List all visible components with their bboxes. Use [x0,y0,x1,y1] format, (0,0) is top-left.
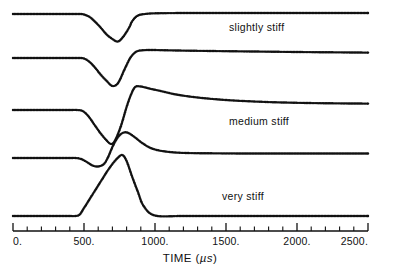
data-point-marker [367,215,369,217]
chart-svg: 0.500.1000.1500.2000.2500. TIME (µs) sli… [0,0,394,272]
x-axis-title-suffix: ) [213,252,217,264]
trace-2 [12,49,369,87]
x-axis-group: 0.500.1000.1500.2000.2500. [13,223,368,247]
annotation-slightly-stiff: slightly stiff [229,21,284,33]
x-tick-label: 1500. [212,235,239,247]
x-tick-label: 0. [13,235,22,247]
x-axis-title-unit: µs [200,252,213,264]
trace-series-group [12,12,369,218]
x-axis-title-prefix: TIME ( [163,252,200,264]
x-tick-label: 2000. [283,235,310,247]
trace-1 [12,12,369,43]
data-point-marker [367,102,369,104]
x-axis-tick-labels: 0.500.1000.1500.2000.2500. [13,235,368,247]
data-point-marker [367,12,369,14]
trace-4 [12,131,369,168]
x-tick-label: 500. [73,235,94,247]
x-tick-label: 2500. [341,235,368,247]
data-point-marker [367,152,369,154]
trace-5 [12,154,369,218]
x-tick-label: 1000. [141,235,168,247]
annotation-very-stiff: very stiff [222,190,264,202]
annotation-medium-stiff: medium stiff [229,115,289,127]
x-axis-title: TIME (µs) [163,252,217,264]
waveform-chart-figure: 0.500.1000.1500.2000.2500. TIME (µs) sli… [0,0,394,272]
trace-3 [12,85,369,145]
x-axis-ticks [13,223,368,231]
data-point-marker [367,51,369,53]
